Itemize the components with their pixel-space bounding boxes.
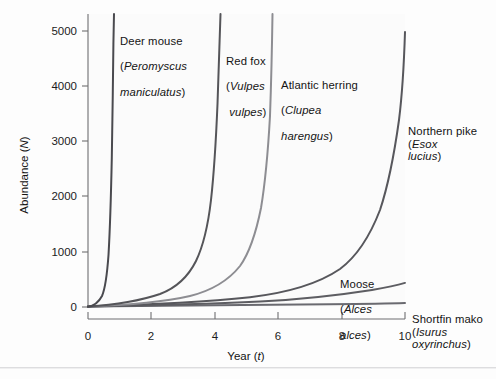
x-tick-6: 6 (275, 330, 281, 342)
red-fox-common-name: Red fox (226, 55, 266, 67)
y-axis-title: Abundance (N) (18, 136, 30, 214)
series-label-moose: Moose (Alces alces) (340, 265, 402, 342)
y-tick-5000: 5000 (51, 25, 77, 37)
x-axis-title: Year (t) (227, 350, 264, 362)
series-label-atlantic-herring: Atlantic herring (Clupea harengus) (281, 66, 361, 143)
series-label-deer-mouse: Deer mouse (Peromyscus maniculatus) (120, 22, 210, 99)
y-tick-3000: 3000 (51, 135, 77, 147)
northern-pike-common-name: Northern pike (408, 125, 477, 137)
deer-mouse-common-name: Deer mouse (120, 35, 183, 47)
y-tick-2000: 2000 (51, 190, 77, 202)
page-rule-shadow (0, 368, 496, 369)
shortfin-mako-common-name: Shortfin mako (412, 313, 483, 325)
moose-species: alces (340, 329, 367, 341)
y-axis: 5000 4000 3000 2000 1000 0 (51, 14, 88, 313)
x-tick-2: 2 (148, 330, 154, 342)
y-tick-1000: 1000 (51, 246, 77, 258)
moose-genus: Alces (344, 303, 372, 315)
x-tick-0: 0 (85, 330, 91, 342)
shortfin-mako-genus: Isurus (416, 326, 447, 338)
red-fox-species: vulpes (229, 106, 262, 118)
atlantic-herring-genus: Clupea (285, 104, 321, 116)
red-fox-genus: Vulpes (230, 80, 265, 92)
y-tick-4000: 4000 (51, 80, 77, 92)
atlantic-herring-common-name-line1: Atlantic herring (281, 79, 358, 91)
deer-mouse-genus: Peromyscus (124, 60, 187, 72)
northern-pike-genus: Esox (412, 138, 438, 150)
deer-mouse-species: maniculatus (120, 86, 181, 98)
figure-container: 5000 4000 3000 2000 1000 0 0 2 4 6 8 10 … (0, 0, 496, 379)
shortfin-mako-species: oxyrinchus (412, 338, 467, 350)
series-label-shortfin-mako: Shortfin mako (Isurus oxyrinchus) (412, 300, 496, 351)
moose-common-name: Moose (340, 278, 374, 290)
y-tick-0: 0 (71, 301, 77, 313)
northern-pike-species: lucius (408, 150, 437, 162)
x-tick-4: 4 (212, 330, 219, 342)
series-label-northern-pike: Northern pike (Esox lucius) (408, 112, 494, 163)
atlantic-herring-species: harengus (281, 130, 329, 142)
